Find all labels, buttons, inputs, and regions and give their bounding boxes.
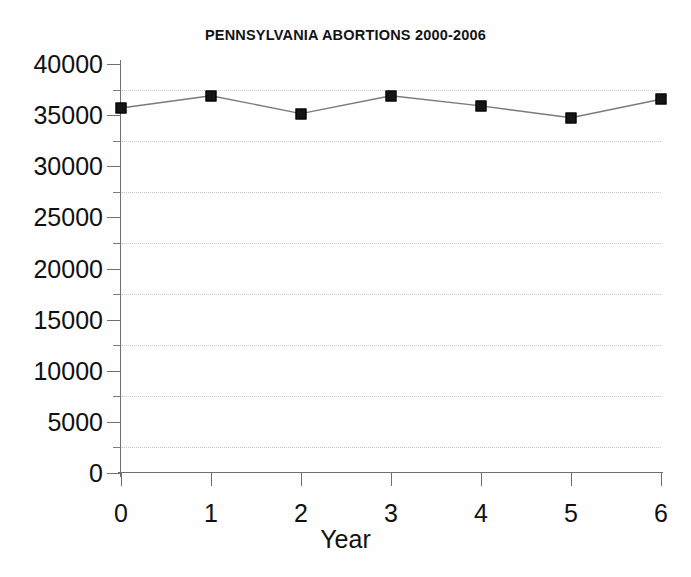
chart-container: PENNSYLVANIA ABORTIONS 2000-2006 4000035… (0, 0, 691, 577)
x-axis-tick-label: 5 (564, 499, 578, 528)
y-axis-minor-tick (113, 141, 121, 142)
x-axis-tick (481, 473, 482, 486)
y-axis-tick-label: 0 (89, 459, 103, 488)
y-axis-tick (107, 371, 121, 372)
x-axis-tick-label: 4 (474, 499, 488, 528)
y-axis-tick (107, 217, 121, 218)
data-point-marker (566, 112, 577, 123)
x-axis-tick (121, 473, 122, 486)
y-axis-tick-label: 35000 (33, 101, 103, 130)
y-axis-minor-tick (113, 90, 121, 91)
y-axis-minor-tick (113, 396, 121, 397)
x-tick-layer: 0123456 (121, 473, 661, 533)
y-axis-tick-label: 5000 (47, 407, 103, 436)
x-axis-tick-label: 2 (294, 499, 308, 528)
y-axis-tick-label: 15000 (33, 305, 103, 334)
series-line (121, 64, 661, 473)
data-point-marker (116, 102, 127, 113)
y-axis-tick (107, 422, 121, 423)
x-axis-tick (391, 473, 392, 486)
y-axis-tick (107, 115, 121, 116)
x-axis-title: Year (0, 525, 691, 554)
y-axis-minor-tick (113, 447, 121, 448)
data-point-marker (296, 108, 307, 119)
x-axis-tick (571, 473, 572, 486)
y-axis-tick (107, 64, 121, 65)
x-axis-tick-label: 1 (204, 499, 218, 528)
y-axis-tick (107, 269, 121, 270)
y-axis-minor-tick (113, 243, 121, 244)
data-point-marker (656, 94, 667, 105)
y-axis-tick-label: 40000 (33, 50, 103, 79)
y-axis-tick-label: 30000 (33, 152, 103, 181)
y-axis-tick-label: 10000 (33, 356, 103, 385)
y-axis-tick (107, 320, 121, 321)
y-axis-minor-tick (113, 294, 121, 295)
y-axis-tick-label: 20000 (33, 254, 103, 283)
y-axis-tick (107, 166, 121, 167)
y-axis-tick-label: 25000 (33, 203, 103, 232)
data-point-marker (476, 100, 487, 111)
data-point-marker (386, 90, 397, 101)
x-axis-tick (301, 473, 302, 486)
data-point-marker (206, 90, 217, 101)
y-axis-tick (107, 473, 121, 474)
y-axis-minor-tick (113, 345, 121, 346)
x-axis-tick (661, 473, 662, 486)
x-axis-tick-label: 6 (654, 499, 668, 528)
x-axis-tick-label: 3 (384, 499, 398, 528)
x-axis-tick (211, 473, 212, 486)
chart-title: PENNSYLVANIA ABORTIONS 2000-2006 (0, 27, 691, 43)
y-axis-minor-tick (113, 192, 121, 193)
x-axis-tick-label: 0 (114, 499, 128, 528)
plot-area: 4000035000300002500020000150001000050000 (121, 64, 661, 473)
